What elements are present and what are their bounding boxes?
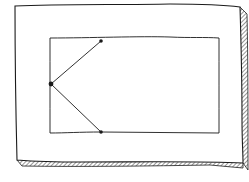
node-top bbox=[99, 39, 103, 43]
node-left bbox=[49, 82, 54, 87]
sketch-canvas bbox=[0, 0, 249, 182]
node-bottom bbox=[99, 130, 103, 134]
